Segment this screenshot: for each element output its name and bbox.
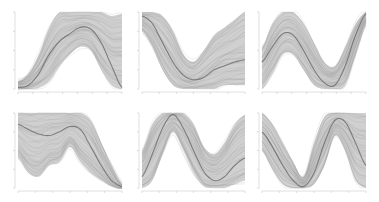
figure-grid bbox=[0, 0, 379, 202]
panel-row1-col3 bbox=[262, 12, 366, 89]
plot-area bbox=[262, 12, 366, 89]
panel-row1-col2 bbox=[142, 12, 245, 89]
plot-area bbox=[18, 12, 122, 89]
panel-row1-col1 bbox=[18, 12, 122, 89]
plot-area bbox=[18, 113, 122, 188]
panel-row2-col2 bbox=[142, 113, 245, 188]
plot-area bbox=[142, 113, 245, 188]
panel-row2-col3 bbox=[262, 113, 366, 188]
panel-row2-col1 bbox=[18, 113, 122, 188]
plot-area bbox=[142, 12, 245, 89]
plot-area bbox=[262, 113, 366, 188]
